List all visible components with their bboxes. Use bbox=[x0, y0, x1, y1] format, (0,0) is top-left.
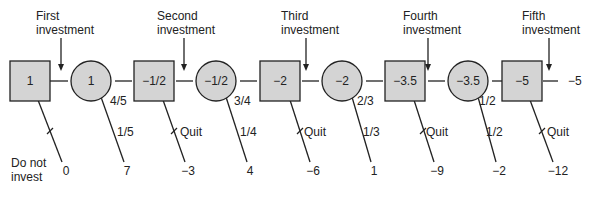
quit-label: Quit bbox=[304, 125, 327, 139]
do-not-invest-label: Do not bbox=[11, 156, 47, 170]
node-value: 1 bbox=[88, 74, 95, 88]
investment-label: Fifth bbox=[522, 9, 545, 23]
investment-label: Fourth bbox=[403, 9, 438, 23]
node-value: −2 bbox=[273, 74, 287, 88]
branch-prob: 1/5 bbox=[117, 125, 134, 139]
payoff: 7 bbox=[124, 164, 131, 178]
quit-label: Quit bbox=[180, 125, 203, 139]
investment-label: investment bbox=[36, 23, 95, 37]
investment-label: investment bbox=[157, 23, 216, 37]
node-value: −1/2 bbox=[204, 74, 228, 88]
quit-label: Quit bbox=[426, 125, 449, 139]
continue-prob: 4/5 bbox=[110, 94, 127, 108]
decision-tree-diagram: 1 1 −1/2 −1/2 −2 −2 −3.5 −3.5 −5 First i… bbox=[0, 0, 594, 202]
investment-label: investment bbox=[403, 23, 462, 37]
investment-label: First bbox=[36, 9, 60, 23]
payoff: −3 bbox=[181, 164, 195, 178]
final-payoff: −5 bbox=[568, 74, 582, 88]
payoff: 1 bbox=[371, 164, 378, 178]
continue-prob: 2/3 bbox=[357, 94, 374, 108]
node-value: −3.5 bbox=[456, 74, 480, 88]
branch-prob: 1/2 bbox=[486, 125, 503, 139]
quit-label: Quit bbox=[547, 125, 570, 139]
investment-label: Second bbox=[157, 9, 198, 23]
payoff: −6 bbox=[306, 164, 320, 178]
payoff: −12 bbox=[548, 164, 569, 178]
payoff: −2 bbox=[492, 164, 506, 178]
payoff: −9 bbox=[430, 164, 444, 178]
payoff: 0 bbox=[63, 164, 70, 178]
investment-label: investment bbox=[522, 23, 581, 37]
investment-label: investment bbox=[281, 23, 340, 37]
node-value: 1 bbox=[27, 74, 34, 88]
do-not-invest-label: invest bbox=[11, 170, 43, 184]
node-value: −2 bbox=[335, 74, 349, 88]
continue-prob: 3/4 bbox=[234, 94, 251, 108]
node-value: −5 bbox=[515, 74, 529, 88]
payoffs: 0 7 −3 4 −6 1 −9 −2 −12 bbox=[63, 164, 569, 178]
node-value: −1/2 bbox=[142, 74, 166, 88]
continue-prob: 1/2 bbox=[479, 94, 496, 108]
payoff: 4 bbox=[247, 164, 254, 178]
investment-label: Third bbox=[281, 9, 308, 23]
branch-prob: 1/3 bbox=[363, 125, 380, 139]
branch-prob: 1/4 bbox=[240, 125, 257, 139]
investment-labels: First investment Second investment Third… bbox=[36, 9, 581, 37]
node-value: −3.5 bbox=[393, 74, 417, 88]
